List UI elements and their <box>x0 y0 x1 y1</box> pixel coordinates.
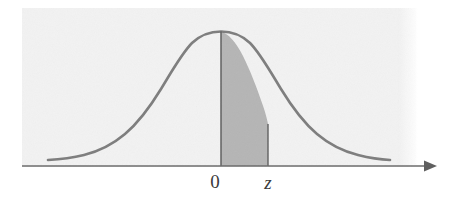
normal-distribution-figure: 0 z <box>0 0 453 204</box>
paper-grain-overlay <box>22 8 416 167</box>
normal-curve-plot <box>0 0 453 204</box>
axis-arrowhead-icon <box>424 161 437 172</box>
axis-label-z: z <box>258 173 278 192</box>
axis-label-origin: 0 <box>205 172 225 191</box>
